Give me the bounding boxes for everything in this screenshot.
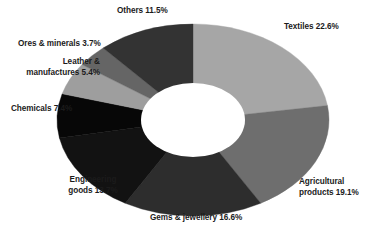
slice-label-engineering-line2: goods 13.7% bbox=[68, 186, 118, 195]
slice-label-others: Others 11.5% bbox=[117, 6, 168, 17]
slice-label-leather-line1: Leather & bbox=[63, 57, 100, 66]
slice-label-leather-line2: manufactures 5.4% bbox=[26, 68, 100, 77]
slice-label-leather-manufactures: Leather & manufactures 5.4% bbox=[14, 57, 100, 78]
donut-chart: Others 11.5% Textiles 22.6% Ores & miner… bbox=[0, 0, 373, 232]
slice-label-gems-jewellery-text: Gems & jewellery 16.6% bbox=[150, 213, 242, 222]
slice-label-agricultural-line2: products 19.1% bbox=[299, 188, 359, 197]
slice-label-gems-jewellery: Gems & jewellery 16.6% bbox=[150, 213, 242, 224]
slice-label-agricultural-line1: Agricultural bbox=[299, 177, 344, 186]
slice-label-chemicals: Chemicals 7.4% bbox=[11, 104, 72, 115]
slice-label-textiles-text: Textiles 22.6% bbox=[284, 22, 339, 31]
slice-label-agricultural-products: Agricultural products 19.1% bbox=[299, 177, 369, 198]
slice-label-ores-minerals: Ores & minerals 3.7% bbox=[18, 39, 101, 50]
slice-label-others-text: Others 11.5% bbox=[117, 6, 168, 15]
slice-label-engineering-line1: Engineering bbox=[70, 175, 117, 184]
slice-label-ores-minerals-text: Ores & minerals 3.7% bbox=[18, 39, 101, 48]
slice-label-chemicals-text: Chemicals 7.4% bbox=[11, 104, 72, 113]
donut-hole bbox=[141, 83, 245, 157]
slice-label-textiles: Textiles 22.6% bbox=[284, 22, 339, 33]
slice-label-engineering-goods: Engineering goods 13.7% bbox=[56, 175, 130, 196]
